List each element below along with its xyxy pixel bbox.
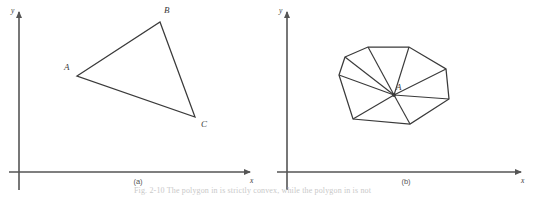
- octagon-center-point: [392, 93, 396, 97]
- panel-b-caption: (b): [401, 177, 411, 186]
- panel-b-y-axis-label: y: [278, 6, 283, 15]
- panel-a-y-axis-label: y: [10, 6, 15, 15]
- bottom-caption-text: Fig. 2-10 The polygon in is strictly con…: [134, 187, 371, 195]
- panel-a-x-axis-label: x: [249, 176, 254, 185]
- bottom-caption-strip: Fig. 2-10 The polygon in is strictly con…: [0, 187, 552, 198]
- triangle-vertex-label-a: A: [63, 62, 70, 72]
- triangle-vertex-label-c: C: [201, 119, 208, 129]
- panel-a-caption: (a): [133, 177, 143, 186]
- octagon-center-label-a: A: [395, 82, 402, 92]
- triangle-vertex-label-b: B: [164, 5, 170, 15]
- figure-background: [0, 0, 552, 198]
- panel-b-x-axis-label: x: [520, 176, 525, 185]
- figure-canvas: x y A B C (a) x y: [0, 0, 552, 198]
